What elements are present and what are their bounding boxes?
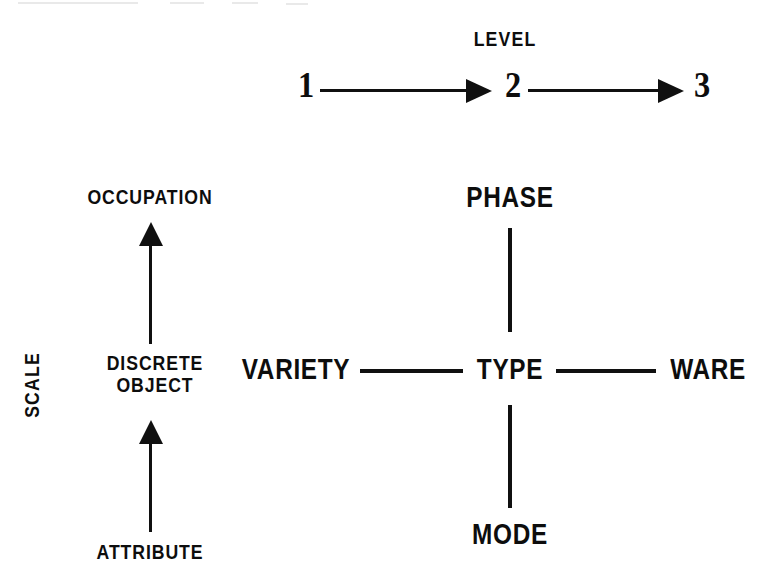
level-arrow-1-to-2-shaft (320, 89, 468, 92)
scale-step-occupation: OCCUPATION (87, 186, 212, 208)
scan-artifact (18, 2, 138, 4)
cross-connector-type-to-mode (508, 405, 512, 508)
classification-diagram: LEVEL 1 2 3 SCALE OCCUPATION DISCRETE OB… (0, 0, 759, 583)
level-arrow-2-to-3-head (658, 79, 684, 103)
scale-step-discrete-object-line1: DISCRETE (107, 351, 204, 374)
cross-left-variety: VARIETY (242, 354, 350, 385)
scale-arrow-discrete-to-occupation-head (139, 222, 163, 246)
cross-connector-type-to-ware (556, 369, 656, 373)
scale-arrow-attribute-to-discrete-shaft (149, 440, 152, 532)
cross-connector-phase-to-type (508, 228, 512, 332)
scan-artifact (232, 2, 258, 4)
scale-arrow-attribute-to-discrete-head (139, 420, 163, 444)
scale-step-discrete-object: DISCRETE OBJECT (107, 352, 204, 397)
cross-right-ware: WARE (670, 354, 746, 385)
level-arrow-2-to-3-shaft (528, 89, 660, 92)
cross-center-type: TYPE (477, 354, 543, 385)
cross-top-phase: PHASE (466, 182, 553, 213)
scan-artifact (170, 2, 204, 4)
scale-axis-title: SCALE (20, 351, 44, 418)
scan-artifact (286, 3, 308, 5)
cross-connector-variety-to-type (360, 369, 463, 373)
level-step-1: 1 (298, 64, 314, 106)
level-axis-title: LEVEL (474, 27, 537, 51)
level-arrow-1-to-2-head (466, 79, 492, 103)
level-step-3: 3 (694, 64, 710, 106)
cross-bottom-mode: MODE (472, 519, 548, 550)
scale-step-attribute: ATTRIBUTE (97, 541, 204, 563)
scale-step-discrete-object-line2: OBJECT (116, 373, 193, 396)
scale-arrow-discrete-to-occupation-shaft (149, 244, 152, 344)
level-step-2: 2 (505, 64, 521, 106)
